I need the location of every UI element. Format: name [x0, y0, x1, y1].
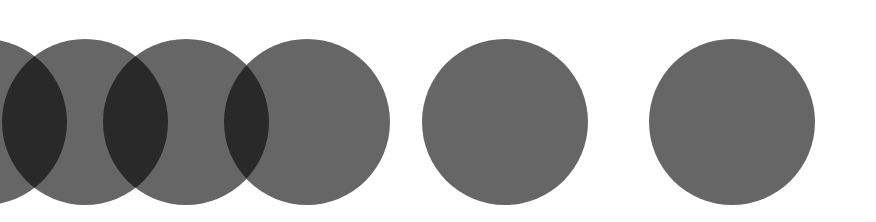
circle-4 [224, 39, 390, 205]
overlapping-circles-diagram [0, 0, 876, 222]
circles-canvas [0, 0, 876, 222]
circle-6 [649, 39, 815, 205]
circle-5 [422, 39, 588, 205]
